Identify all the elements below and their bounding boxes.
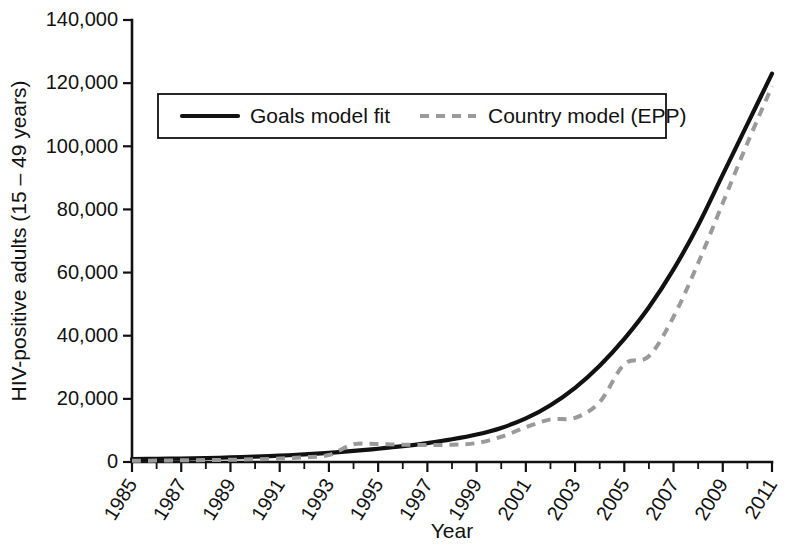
y-axis-tick-label: 120,000 [46, 71, 118, 93]
y-axis-tick-label: 80,000 [57, 198, 118, 220]
hiv-positive-adults-line-chart: 020,00040,00060,00080,000100,000120,0001… [0, 0, 788, 550]
chart-legend: Goals model fitCountry model (EPP) [158, 94, 686, 138]
y-axis-tick-label: 0 [107, 450, 118, 472]
y-axis-tick-label: 100,000 [46, 135, 118, 157]
y-axis-tick-label: 60,000 [57, 261, 118, 283]
chart-figure: 020,00040,00060,00080,000100,000120,0001… [0, 0, 788, 550]
y-axis-tick-label: 40,000 [57, 324, 118, 346]
y-axis-tick-label: 140,000 [46, 8, 118, 30]
x-axis-title: Year [431, 519, 473, 542]
y-axis-title: HIV-positive adults (15 – 49 years) [7, 81, 30, 402]
y-axis-tick-label: 20,000 [57, 387, 118, 409]
legend-label-1: Goals model fit [250, 104, 390, 127]
legend-label-2: Country model (EPP) [488, 104, 686, 127]
